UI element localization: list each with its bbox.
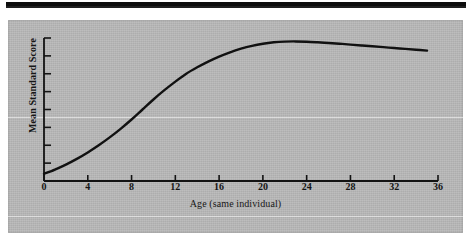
x-axis-label: Age (same individual) [8,198,463,209]
x-tick-label: 12 [170,181,180,192]
x-tick-label: 36 [433,181,443,192]
figure-stage: Mean Standard Score Age (same individual… [0,0,471,242]
x-tick-label: 24 [302,181,312,192]
mean-standard-score-curve [44,41,427,173]
x-tick-label: 20 [258,181,268,192]
x-tick-label: 28 [345,181,355,192]
x-tick-label: 32 [389,181,399,192]
x-tick-label: 4 [85,181,90,192]
x-tick-label: 16 [214,181,224,192]
x-tick-label: 0 [42,181,47,192]
y-axis-label: Mean Standard Score [27,21,38,151]
y-axis-ticks [44,38,51,181]
figure-plate: Mean Standard Score Age (same individual… [8,20,463,233]
x-tick-label: 8 [129,181,134,192]
scan-top-bar [6,2,466,8]
